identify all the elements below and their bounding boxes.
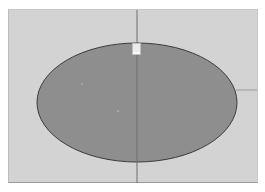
drawing-stage xyxy=(0,0,265,192)
canvas-speck xyxy=(117,110,119,112)
canvas-overlay xyxy=(0,0,265,192)
resize-handle-icon[interactable] xyxy=(133,44,141,55)
canvas-speck xyxy=(81,83,83,85)
